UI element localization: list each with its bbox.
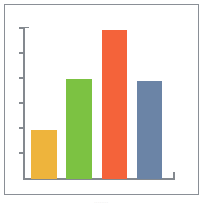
plot-area: [5, 5, 198, 194]
bar-1: [31, 130, 57, 179]
figure-caption: ........: [0, 198, 203, 205]
screenshot-root: ........: [0, 0, 203, 212]
bar-2: [66, 79, 92, 179]
bar-4: [137, 81, 163, 179]
bar-3: [102, 30, 128, 179]
bars-layer: [25, 27, 175, 179]
figure-frame: [4, 4, 199, 195]
